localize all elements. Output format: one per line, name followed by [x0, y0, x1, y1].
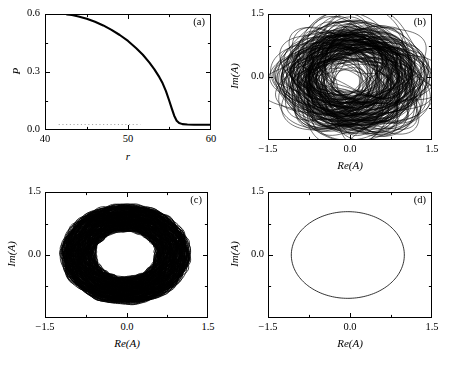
panel-c-ylabel: Im(A) [5, 232, 17, 276]
panel-b-xtick-2: 1.5 [416, 143, 448, 154]
panel-c: (c) [45, 192, 208, 318]
panel-b-xtick-0: −1.5 [252, 143, 284, 154]
panel-b-xlabel: Re(A) [322, 159, 378, 171]
panel-d: (d) [268, 192, 432, 318]
panel-c-label: (c) [190, 194, 202, 205]
panel-c-xtick-0: −1.5 [29, 321, 61, 332]
panel-a-label: (a) [193, 16, 205, 27]
panel-d-ylabel: Im(A) [228, 232, 240, 276]
panel-a-plot [45, 14, 211, 130]
panel-b-ylabel: Im(A) [228, 54, 240, 98]
panel-d-xtick-1: 0.0 [334, 321, 366, 332]
panel-a-xlabel: r [108, 150, 148, 162]
panel-a-xtick-1: 50 [113, 133, 143, 144]
panel-d-xtick-0: −1.5 [252, 321, 284, 332]
panel-b-xtick-1: 0.0 [334, 143, 366, 154]
panel-b: (b) [268, 14, 432, 140]
panel-b-label: (b) [414, 16, 426, 27]
panel-d-ytick-2: 1.5 [234, 185, 264, 196]
panel-a-ytick-2: 0.6 [12, 7, 40, 18]
panel-d-xtick-2: 1.5 [416, 321, 448, 332]
panel-a: (a) [45, 14, 211, 130]
panel-d-xlabel: Re(A) [322, 337, 378, 349]
panel-a-xtick-2: 60 [196, 133, 226, 144]
panel-b-ytick-2: 1.5 [234, 7, 264, 18]
panel-c-xtick-1: 0.0 [111, 321, 143, 332]
panel-d-label: (d) [414, 194, 426, 205]
panel-b-plot [268, 14, 432, 140]
panel-a-xtick-0: 40 [30, 133, 60, 144]
panel-c-xtick-2: 1.5 [192, 321, 224, 332]
panel-c-ytick-2: 1.5 [11, 185, 41, 196]
panel-d-plot [268, 192, 432, 318]
panel-c-xlabel: Re(A) [99, 337, 155, 349]
figure-panel-grid: (a) 0.6 0.3 0.0 40 50 60 r P (b) 1.5 0.0… [0, 0, 449, 381]
panel-c-plot [45, 192, 208, 318]
panel-a-ylabel: P [10, 51, 22, 91]
